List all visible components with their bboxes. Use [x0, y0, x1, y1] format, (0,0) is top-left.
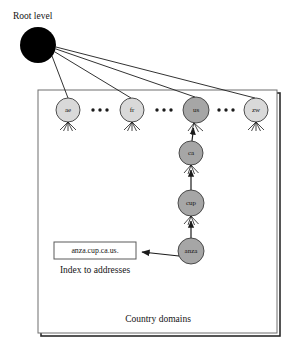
country-node-ae-label: ae	[65, 106, 71, 114]
ellipsis-dot	[217, 108, 220, 111]
country-node-zw-label: zw	[252, 106, 261, 114]
ellipsis-group-1	[91, 108, 108, 111]
country-node-us-label: us	[193, 106, 200, 114]
root-level-label: Root level	[13, 11, 53, 21]
ellipsis-dot	[91, 108, 94, 111]
chain-node-anza-label: anza	[185, 247, 199, 255]
country-domains-container	[38, 90, 277, 333]
chain-node-ca-label: ca	[188, 149, 195, 157]
ellipsis-dot	[169, 108, 172, 111]
index-caption: Index to addresses	[60, 265, 130, 275]
index-box-value: anza.cup.ca.us.	[71, 246, 118, 255]
root-node	[20, 27, 56, 63]
country-domains-caption: Country domains	[125, 314, 191, 324]
ellipsis-dot	[162, 108, 165, 111]
ellipsis-dot	[224, 108, 227, 111]
country-node-fr-label: fr	[130, 106, 135, 114]
chain-node-cup-label: cup	[186, 199, 197, 207]
ellipsis-dot	[155, 108, 158, 111]
chain-node-anza-group[interactable]: anza	[178, 238, 204, 264]
diagram-canvas: Root level ae fr	[0, 0, 293, 351]
ellipsis-dot	[98, 108, 101, 111]
dns-hierarchy-diagram: Root level ae fr	[0, 0, 293, 351]
ellipsis-group-2	[155, 108, 172, 111]
ellipsis-dot	[231, 108, 234, 111]
ellipsis-dot	[105, 108, 108, 111]
ellipsis-group-3	[217, 108, 234, 111]
